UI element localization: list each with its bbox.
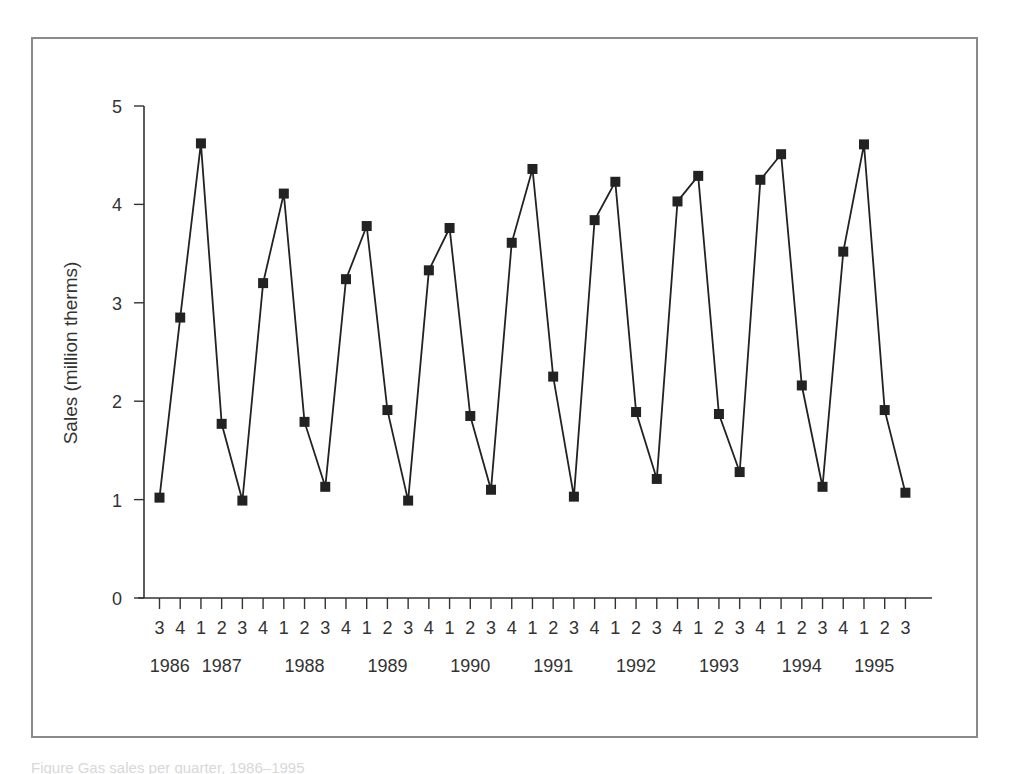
year-label: 1987 xyxy=(202,656,242,676)
quarter-label: 1 xyxy=(693,618,703,638)
data-point-marker xyxy=(362,221,372,231)
data-point-marker xyxy=(714,409,724,419)
data-point-marker xyxy=(838,247,848,257)
quarter-label: 4 xyxy=(175,618,185,638)
quarter-label: 3 xyxy=(569,618,579,638)
quarter-label: 4 xyxy=(507,618,517,638)
quarter-label: 2 xyxy=(880,618,890,638)
quarter-label: 4 xyxy=(590,618,600,638)
y-axis: 012345 xyxy=(112,97,144,609)
data-point-marker xyxy=(175,313,185,323)
quarter-label: 1 xyxy=(610,618,620,638)
data-point-marker xyxy=(548,372,558,382)
data-point-marker xyxy=(465,411,475,421)
data-point-marker xyxy=(755,175,765,185)
data-point-marker xyxy=(155,493,165,503)
data-point-marker xyxy=(797,380,807,390)
data-point-marker xyxy=(880,405,890,415)
data-point-marker xyxy=(569,492,579,502)
quarter-label: 3 xyxy=(237,618,247,638)
quarter-label: 4 xyxy=(838,618,848,638)
data-point-marker xyxy=(196,138,206,148)
data-point-marker xyxy=(258,278,268,288)
quarter-label: 1 xyxy=(776,618,786,638)
data-point-marker xyxy=(859,139,869,149)
data-point-marker xyxy=(507,238,517,248)
y-tick-label: 0 xyxy=(112,589,122,609)
series-line xyxy=(160,143,906,500)
quarter-label: 4 xyxy=(672,618,682,638)
year-label: 1986 xyxy=(150,656,190,676)
data-point-marker xyxy=(631,407,641,417)
data-point-marker xyxy=(424,265,434,275)
y-tick-label: 2 xyxy=(112,392,122,412)
data-point-marker xyxy=(900,488,910,498)
quarter-label: 2 xyxy=(382,618,392,638)
quarter-label: 3 xyxy=(320,618,330,638)
quarter-label: 2 xyxy=(300,618,310,638)
data-point-marker xyxy=(279,189,289,199)
quarter-label: 3 xyxy=(403,618,413,638)
line-chart: 012345 341234123412341234123412341234123… xyxy=(0,0,1015,774)
quarter-label: 3 xyxy=(900,618,910,638)
quarter-label: 4 xyxy=(341,618,351,638)
y-tick-label: 5 xyxy=(112,97,122,117)
quarter-label: 2 xyxy=(631,618,641,638)
data-point-marker xyxy=(776,149,786,159)
quarter-label: 3 xyxy=(154,618,164,638)
year-label: 1994 xyxy=(782,656,822,676)
year-label: 1989 xyxy=(367,656,407,676)
data-point-marker xyxy=(382,405,392,415)
figure-caption: Figure Gas sales per quarter, 1986–1995 xyxy=(31,754,305,774)
data-point-marker xyxy=(486,485,496,495)
year-label: 1988 xyxy=(285,656,325,676)
data-point-marker xyxy=(735,467,745,477)
data-point-marker xyxy=(237,496,247,506)
quarter-label: 4 xyxy=(424,618,434,638)
year-label: 1992 xyxy=(616,656,656,676)
data-point-marker xyxy=(673,196,683,206)
year-label: 1990 xyxy=(450,656,490,676)
quarter-label: 3 xyxy=(486,618,496,638)
data-point-marker xyxy=(652,474,662,484)
quarter-label: 1 xyxy=(196,618,206,638)
quarter-label: 2 xyxy=(217,618,227,638)
data-point-marker xyxy=(693,171,703,181)
quarter-label: 2 xyxy=(465,618,475,638)
quarter-label: 3 xyxy=(818,618,828,638)
year-label: 1995 xyxy=(854,656,894,676)
y-tick-label: 1 xyxy=(112,491,122,511)
quarter-label: 1 xyxy=(527,618,537,638)
quarter-label: 1 xyxy=(859,618,869,638)
quarter-label: 2 xyxy=(714,618,724,638)
data-point-marker xyxy=(445,223,455,233)
quarter-label: 4 xyxy=(755,618,765,638)
data-point-marker xyxy=(341,274,351,284)
quarter-label: 2 xyxy=(548,618,558,638)
data-point-marker xyxy=(818,482,828,492)
sales-series xyxy=(155,138,911,505)
year-label: 1991 xyxy=(533,656,573,676)
quarter-label: 4 xyxy=(258,618,268,638)
y-tick-label: 3 xyxy=(112,294,122,314)
quarter-label: 1 xyxy=(445,618,455,638)
quarter-label: 3 xyxy=(652,618,662,638)
data-point-marker xyxy=(300,417,310,427)
quarter-label: 1 xyxy=(362,618,372,638)
data-point-marker xyxy=(217,419,227,429)
y-axis-title: Sales (million therms) xyxy=(60,262,81,445)
data-point-marker xyxy=(590,215,600,225)
data-point-marker xyxy=(527,164,537,174)
quarter-label: 3 xyxy=(735,618,745,638)
year-label: 1993 xyxy=(699,656,739,676)
quarter-label: 1 xyxy=(279,618,289,638)
quarter-label: 2 xyxy=(797,618,807,638)
x-axis: 3412341234123412341234123412341234123198… xyxy=(138,598,932,676)
data-point-marker xyxy=(403,496,413,506)
data-point-marker xyxy=(610,177,620,187)
y-tick-label: 4 xyxy=(112,195,122,215)
data-point-marker xyxy=(320,482,330,492)
